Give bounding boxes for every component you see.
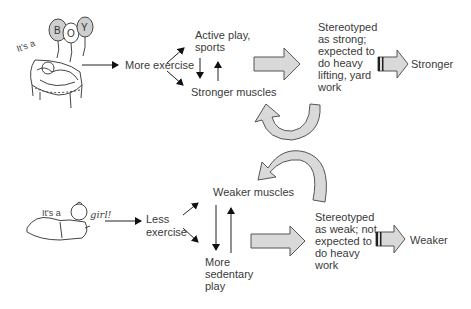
girl-stereotype-arrow: [251, 226, 305, 256]
girl-sedentary-line2: sedentary: [205, 268, 253, 280]
girl-stereo-line1: Stereotyped: [315, 211, 374, 223]
balloon-letter-y: Y: [81, 22, 88, 33]
boy-stronger-muscles: Stronger muscles: [191, 86, 277, 98]
boy-stereo-line1: Stereotyped: [318, 21, 377, 33]
girl-stereo-line3: expected to: [315, 235, 372, 247]
girl-less-line2: exercise: [146, 226, 187, 238]
balloon-letter-b: B: [54, 25, 61, 36]
girl-stereo-line4: do heavy: [315, 247, 360, 259]
boy-stereo-line2: as strong;: [318, 33, 366, 45]
balloon-letter-o: O: [67, 28, 75, 39]
boy-outcome: Stronger: [411, 58, 453, 70]
girl-weaker-muscles: Weaker muscles: [213, 186, 294, 198]
outcome-arrow-bars: [376, 57, 384, 246]
girl-sedentary-line3: play: [205, 280, 225, 292]
boy-stereo-line4: do heavy: [318, 57, 363, 69]
curved-arrow-up: [255, 104, 320, 140]
girl-word: girl!: [90, 209, 112, 220]
boy-stereotype-arrow: [254, 48, 300, 80]
boy-more-exercise: More exercise: [125, 59, 194, 71]
boy-stereo-line6: work: [318, 81, 341, 93]
boy-active-play-line2: sports: [195, 41, 225, 53]
girl-caption: It's a: [42, 208, 61, 218]
girl-less-line1: Less: [146, 213, 169, 225]
diagram-canvas: It's a B O Y It's a girl!: [0, 0, 471, 309]
girl-stereo-line2: as weak; not: [315, 223, 377, 235]
girl-sedentary-line1: More: [205, 256, 230, 268]
girl-stereo-line5: work: [315, 259, 338, 271]
boy-caption: It's a: [15, 38, 36, 54]
boy-active-play-line1: Active play,: [195, 29, 250, 41]
boy-stereo-line5: lifting, yard: [318, 69, 371, 81]
boy-stereo-line3: expected to: [318, 45, 375, 57]
girl-outcome: Weaker: [410, 234, 448, 246]
